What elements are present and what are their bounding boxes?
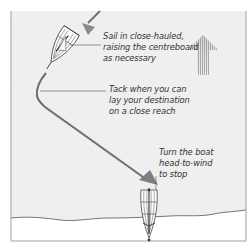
- tack-instruction-label: Tack when you can lay your destination o…: [109, 84, 190, 117]
- sail-close-hauled-label: Sail in close-hauled, raising the centre…: [103, 31, 198, 64]
- sailing-diagram: Sail in close-hauled, raising the centre…: [0, 0, 252, 245]
- head-to-wind-stop-label: Turn the boat head-to-wind to stop: [159, 147, 213, 180]
- boat-head-to-wind-icon: [141, 188, 157, 241]
